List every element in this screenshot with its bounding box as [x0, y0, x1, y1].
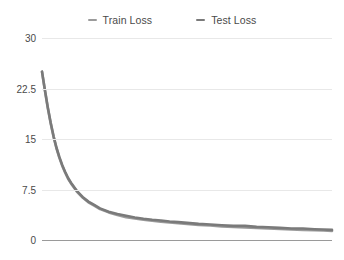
series-line	[42, 72, 332, 231]
legend-item-train-loss[interactable]: Train Loss	[88, 14, 153, 26]
legend-dash-icon	[196, 19, 205, 21]
gridline	[42, 190, 332, 191]
y-tick-label: 22.5	[17, 83, 36, 94]
y-tick-label: 7.5	[22, 184, 36, 195]
legend-dash-icon	[88, 19, 97, 21]
plot-area	[42, 38, 332, 240]
y-tick-label: 30	[25, 33, 36, 44]
legend-label-test-loss: Test Loss	[211, 14, 256, 26]
gridline	[42, 38, 332, 39]
legend-item-test-loss[interactable]: Test Loss	[196, 14, 256, 26]
legend-label-train-loss: Train Loss	[103, 14, 153, 26]
y-tick-label: 15	[25, 134, 36, 145]
gridline	[42, 240, 332, 241]
chart-legend: Train Loss Test Loss	[0, 12, 344, 28]
gridline	[42, 89, 332, 90]
y-axis: 07.51522.530	[0, 0, 42, 260]
y-tick-label: 0	[30, 235, 36, 246]
gridline	[42, 139, 332, 140]
chart-root: Train Loss Test Loss 07.51522.530	[0, 0, 344, 260]
series-line	[42, 72, 332, 230]
